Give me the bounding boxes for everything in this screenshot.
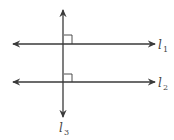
label-l3: l 3	[59, 121, 69, 137]
svg-text:1: 1	[163, 45, 168, 54]
svg-text:3: 3	[64, 128, 69, 137]
label-l1: l 1	[158, 38, 168, 54]
label-l2: l 2	[158, 76, 168, 92]
right-angle-mark-l2	[64, 74, 72, 82]
svg-text:l: l	[59, 121, 63, 135]
svg-text:l: l	[158, 76, 162, 90]
right-angle-mark-l1	[64, 35, 72, 44]
svg-text:2: 2	[163, 83, 168, 92]
parallel-lines-diagram: l 1 l 2 l 3	[0, 0, 174, 140]
svg-text:l: l	[158, 38, 162, 52]
